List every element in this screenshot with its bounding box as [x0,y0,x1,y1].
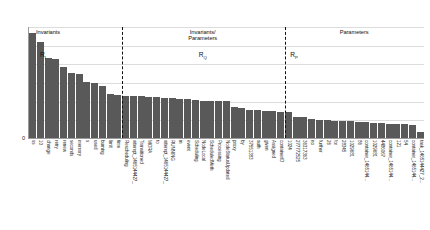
bar [393,124,400,138]
x-axis-tick-label: memory [77,140,82,156]
bar [215,101,222,138]
region-symbol: RP [290,52,350,62]
region-separator [122,27,123,138]
bar [355,122,362,138]
bar [83,82,90,138]
x-axis-tick-label: ss [30,140,35,144]
x-axis-tick-label: 1024 [286,140,291,150]
x-axis-tick-label: time [115,140,120,148]
bar [184,99,191,138]
x-axis-tick-label: container_1465144... [364,140,369,181]
x-axis-tick-label: 37551383 [247,140,252,159]
bar [68,73,75,138]
x-axis-tick-label: NodeLocal [201,140,206,161]
bar [45,58,52,138]
bar [145,97,152,138]
x-axis-tick-label: Assigned [271,140,276,158]
bar [192,100,199,138]
bar [269,111,276,138]
bar [339,121,346,138]
bar [138,96,145,138]
region-separator [285,27,286,138]
x-axis-tick-label: in [178,140,183,143]
bar [370,123,377,138]
region-symbol: RI [40,52,100,62]
x-axis-tick-label: limit [108,140,113,148]
x-axis-tick-label: to [154,140,159,144]
x-axis-tick-label: containerID [278,140,283,162]
bar [60,67,67,138]
x-axis-tick-label: task_1465144427_2... [418,140,423,183]
x-axis-tick-label: MORA [146,140,151,153]
bar [316,120,323,138]
bar [153,97,160,138]
x-axis-tick-label: 36317363 [302,140,307,159]
bar [91,83,98,138]
x-axis-tick-label: retry [53,140,58,149]
x-axis-tick-label: Processing [216,140,221,162]
bar [386,124,393,138]
x-axis-tick-label: event [185,140,190,151]
bar-chart-figure: 020040060080010001200 InvariantsRIInvari… [0,0,430,230]
x-axis-tick-label: attempt_1465144427_ [162,140,167,184]
x-axis-tick-label: 4486067 [379,140,384,157]
x-axis-tick-label: change [46,140,51,154]
x-axis-tick-label: further [317,140,322,152]
x-axis-tick-label: 28345 [341,140,346,152]
x-axis-tick-label: Rescheduling [123,140,128,166]
bar [176,99,183,138]
x-axis-tick-label: auth [255,140,260,148]
x-axis-tick-label: used [92,140,97,149]
x-axis-tick-label: 26 [325,140,330,145]
x-axis-tick-label: Transitioned [139,140,144,164]
bar [362,122,369,138]
x-axis-tick-label: burning [100,140,105,155]
y-axis-zero-label: 0 [16,136,25,142]
region-title: Parameters [324,29,384,35]
x-axis-tick-label: 54 [403,140,408,145]
region-title: Invariants/Parameters [173,29,233,42]
bar [52,59,59,138]
x-axis-tick-label: seconds [69,140,74,156]
bar [246,110,253,138]
x-axis-tick-label: 86 [356,140,361,145]
bar [254,110,261,138]
x-axis-tick-label: 10 [38,140,43,145]
x-axis-tick-label: by [240,140,245,145]
bar [308,119,315,138]
bar [231,107,238,138]
bar [107,94,114,138]
bar [300,117,307,138]
bar [409,125,416,138]
x-axis-tick-label: attempt_1465144427_ [131,140,136,184]
x-axis-tick-label: container_1465144... [410,140,415,181]
bar [347,121,354,138]
x-axis-tick-label: 277772525 [294,140,299,162]
x-axis-tick-label: NodeStatusUpdated [224,140,229,179]
bar [324,120,331,138]
bar [238,108,245,138]
x-axis-tick-label: given [263,140,268,150]
bar [401,124,408,138]
region-title: Invariants [36,29,96,35]
bar [293,117,300,138]
x-axis-tick-label: no [310,140,315,145]
x-axis-tick-label: proxy [232,140,237,151]
bar [114,95,121,138]
bar-series [29,27,424,138]
x-axis-tick-label: renew [61,140,66,152]
bar [29,33,36,138]
x-axis-tick-label: RUNNING [170,140,175,161]
bar [277,112,284,138]
bar [161,98,168,138]
bar [169,98,176,138]
bar [207,101,214,138]
bar [262,111,269,138]
bar [200,101,207,138]
x-axis-tick-labels: ss10changeretryrenewsecondsmemorysusedbu… [28,140,424,228]
bar [417,132,424,138]
bar [130,96,137,138]
x-axis-tick-label: container_1465144... [387,140,392,181]
bar [378,123,385,138]
x-axis-tick-label: for [333,140,338,145]
